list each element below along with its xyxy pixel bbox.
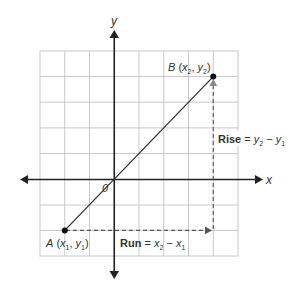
x-axis-left-arrow-icon — [20, 175, 28, 184]
slope-diagram: y x 0 B (x2, y2) A (x1, y1) Rise = y2 − … — [0, 0, 294, 289]
point-a — [62, 227, 68, 233]
y-axis — [110, 30, 120, 279]
point-b — [210, 74, 216, 80]
y-axis-label: y — [110, 14, 118, 28]
y-axis-down-arrow-icon — [110, 271, 120, 279]
origin-label: 0 — [102, 182, 109, 194]
x-axis — [20, 175, 263, 184]
run-label: Run = x2 − x1 — [120, 237, 185, 252]
y-axis-up-arrow-icon — [110, 30, 120, 38]
point-b-label: B (x2, y2) — [168, 61, 211, 75]
point-a-label: A (x1, y1) — [45, 237, 89, 251]
x-axis-right-arrow-icon — [255, 175, 263, 184]
x-axis-label: x — [265, 173, 273, 187]
run-arrowhead-icon — [205, 227, 212, 235]
